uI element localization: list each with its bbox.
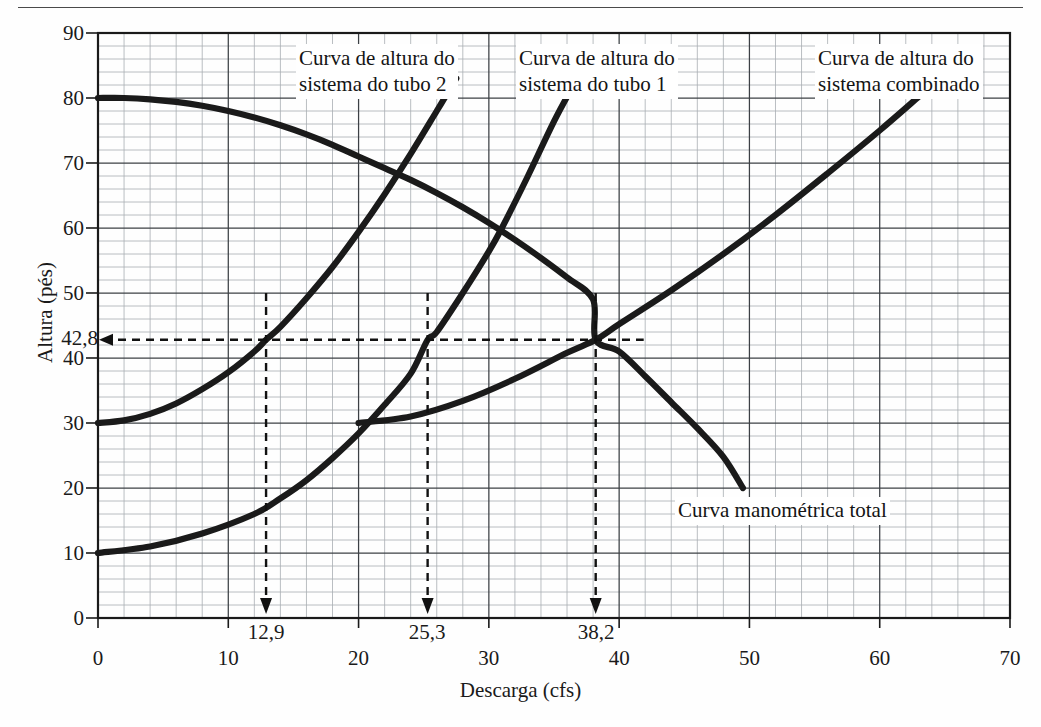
x-tick-label: 40 — [609, 648, 630, 669]
annotation-tube2-line1: Curva de altura do — [299, 45, 455, 71]
axis-ticks — [86, 33, 1010, 628]
figure-page: Altura (pés) Descarga (cfs) 010203040506… — [0, 0, 1041, 727]
annotation-tube1-line2: sistema do tubo 1 — [519, 71, 675, 97]
head-value-tick-label: 42,8 — [12, 328, 98, 349]
y-tick-label: 70 — [12, 153, 84, 174]
annotation-combined-line2: sistema combinado — [818, 71, 980, 97]
q-guide-arrowhead-1 — [260, 598, 272, 614]
q2-marker-label: 25,3 — [409, 622, 446, 643]
x-tick-label: 70 — [1000, 648, 1021, 669]
x-tick-label: 20 — [348, 648, 369, 669]
x-axis-label: Descarga (cfs) — [0, 678, 1041, 703]
q3-marker-label: 38,2 — [578, 622, 615, 643]
annotation-tube1-line1: Curva de altura do — [519, 45, 675, 71]
y-tick-label: 40 — [12, 348, 84, 369]
y-tick-label: 80 — [12, 88, 84, 109]
q-guide-arrowhead-3 — [590, 598, 602, 614]
y-axis-label: Altura (pés) — [33, 233, 58, 393]
x-tick-label: 10 — [218, 648, 239, 669]
annotation-tube2-line2: sistema do tubo 2 — [299, 71, 455, 97]
q1-marker-label: 12,9 — [248, 622, 285, 643]
y-tick-label: 20 — [12, 478, 84, 499]
x-tick-label: 60 — [869, 648, 890, 669]
x-tick-label: 30 — [478, 648, 499, 669]
head-guide-arrowhead — [99, 334, 113, 346]
guide-lines — [104, 293, 644, 596]
annotation-tube1: Curva de altura do sistema do tubo 1 — [516, 44, 678, 99]
x-tick-label: 0 — [93, 648, 104, 669]
y-tick-label: 50 — [12, 283, 84, 304]
y-tick-label: 90 — [12, 23, 84, 44]
q-guide-arrowhead-2 — [422, 598, 434, 614]
annotation-combined: Curva de altura do sistema combinado — [815, 44, 983, 99]
chart-canvas — [0, 0, 1041, 727]
annotation-combined-line1: Curva de altura do — [818, 45, 980, 71]
y-tick-label: 60 — [12, 218, 84, 239]
y-tick-label: 10 — [12, 543, 84, 564]
y-tick-label: 30 — [12, 413, 84, 434]
y-tick-label: 0 — [12, 608, 84, 629]
annotation-tube2: Curva de altura do sistema do tubo 2 — [296, 44, 458, 99]
x-tick-label: 50 — [739, 648, 760, 669]
annotation-manometric: Curva manométrica total — [675, 497, 890, 525]
